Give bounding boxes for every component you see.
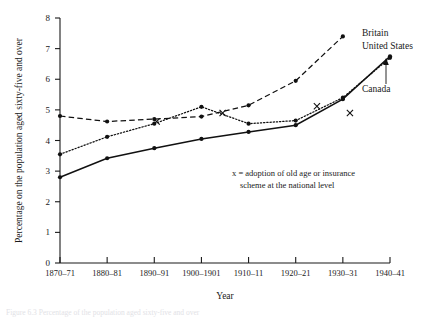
- data-point: [199, 105, 203, 109]
- x-tick-label: 1880–81: [92, 268, 122, 278]
- y-tick-label: 1: [46, 227, 51, 237]
- y-axis-title: Percentage on the population aged sixty-…: [14, 37, 24, 243]
- x-tick-label: 1900–1901: [182, 268, 220, 278]
- data-point: [294, 123, 298, 127]
- plot-layer: [58, 34, 392, 179]
- data-point: [246, 122, 250, 126]
- adoption-x-marks-layer: [154, 103, 353, 125]
- x-axis-ticks: [60, 257, 390, 263]
- series-label-britain: Britain: [362, 28, 389, 38]
- data-point: [246, 103, 250, 107]
- series-labels: Britain United States Canada: [362, 28, 413, 94]
- adoption-note: x = adoption of old age or insurance sch…: [232, 168, 355, 190]
- y-tick-label: 8: [46, 13, 51, 23]
- x-axis: 1870–71 1880–81 1890–91 1900–1901 1910–1…: [45, 257, 405, 301]
- y-tick-label: 3: [46, 166, 51, 176]
- data-point: [105, 135, 109, 139]
- adoption-note-line-1: x = adoption of old age or insurance: [232, 168, 355, 178]
- y-tick-label: 4: [46, 136, 51, 146]
- data-point: [58, 114, 62, 118]
- data-point: [341, 34, 345, 38]
- data-point: [58, 152, 62, 156]
- y-axis: 0 1 2 3 4 5 6 7 8 Percentage on the popu…: [14, 13, 60, 268]
- line-chart-svg: 0 1 2 3 4 5 6 7 8 Percentage on the popu…: [0, 0, 436, 317]
- adoption-note-line-2: scheme at the national level: [240, 180, 335, 190]
- figure-caption-partial: Figure 6.3 Percentage of the population …: [6, 308, 336, 317]
- x-mark-britain-1905: [220, 110, 226, 116]
- x-mark-us-1935: [347, 110, 353, 116]
- data-point: [246, 130, 250, 134]
- x-tick-label: 1920–21: [281, 268, 311, 278]
- data-point: [294, 118, 298, 122]
- data-point: [341, 97, 345, 101]
- y-tick-label: 0: [46, 258, 51, 268]
- x-axis-tick-labels: 1870–71 1880–81 1890–91 1900–1901 1910–1…: [45, 268, 405, 278]
- chart-container: 0 1 2 3 4 5 6 7 8 Percentage on the popu…: [0, 0, 436, 317]
- data-point: [58, 175, 62, 179]
- series-label-canada: Canada: [362, 84, 391, 94]
- y-tick-label: 7: [46, 44, 51, 54]
- y-tick-label: 5: [46, 105, 51, 115]
- data-point: [199, 137, 203, 141]
- y-tick-label: 6: [46, 74, 51, 84]
- x-mark-britain-1925: [314, 103, 320, 109]
- y-axis-ticks: [55, 18, 60, 263]
- data-point: [294, 79, 298, 83]
- data-point: [199, 115, 203, 119]
- data-point: [152, 146, 156, 150]
- series-line-canada: [60, 56, 390, 177]
- x-tick-label: 1930–31: [328, 268, 358, 278]
- data-point: [105, 156, 109, 160]
- data-point: [105, 119, 109, 123]
- data-point: [388, 54, 392, 58]
- series-label-united-states: United States: [362, 41, 413, 51]
- y-tick-label: 2: [46, 197, 51, 207]
- x-tick-label: 1940–41: [375, 268, 405, 278]
- x-tick-label: 1890–91: [139, 268, 169, 278]
- y-axis-tick-labels: 0 1 2 3 4 5 6 7 8: [46, 13, 51, 268]
- series-line-united-states: [60, 58, 390, 154]
- x-tick-label: 1910–11: [234, 268, 263, 278]
- x-tick-label: 1870–71: [45, 268, 75, 278]
- x-axis-title: Year: [216, 291, 234, 301]
